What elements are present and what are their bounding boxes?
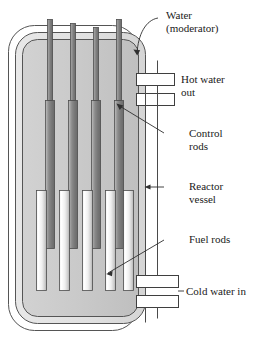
reactor-diagram: Water (moderator) Hot water out Control … bbox=[0, 0, 254, 357]
labels-group: Water (moderator) Hot water out Control … bbox=[166, 9, 246, 297]
cold-water-in-pipe-upper bbox=[137, 276, 179, 288]
label-reactor-vessel-line1: Reactor bbox=[189, 180, 224, 192]
label-cold-water-in: Cold water in bbox=[186, 285, 246, 297]
label-control-rods-line1: Control bbox=[189, 127, 223, 139]
reactor-diagram-canvas: Water (moderator) Hot water out Control … bbox=[0, 0, 254, 357]
label-reactor-vessel-line2: vessel bbox=[189, 193, 216, 205]
label-fuel-rods: Fuel rods bbox=[189, 233, 230, 245]
fuel-rod-5 bbox=[124, 191, 134, 291]
label-water-moderator-line1: Water bbox=[166, 9, 192, 21]
label-hot-water-out-line1: Hot water bbox=[181, 73, 225, 85]
fuel-rod-2 bbox=[60, 191, 70, 291]
label-control-rods-line2: rods bbox=[189, 140, 208, 152]
hot-water-out-pipe-lower bbox=[137, 94, 175, 106]
fuel-rod-1 bbox=[37, 191, 47, 291]
label-water-moderator-line2: (moderator) bbox=[166, 22, 219, 35]
fuel-rod-3 bbox=[83, 191, 93, 291]
label-hot-water-out-line2: out bbox=[181, 86, 195, 98]
cold-water-in-pipe-lower bbox=[137, 296, 179, 308]
hot-water-out-pipe-upper bbox=[137, 74, 175, 86]
